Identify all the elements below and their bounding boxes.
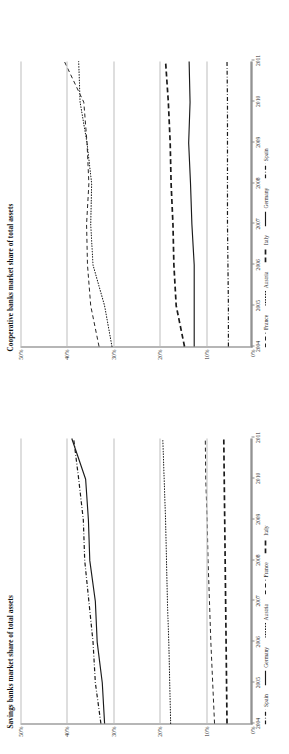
x-axis-tick-label: 2004 [254,340,260,351]
legend-item-germany[interactable]: Germany [262,646,268,684]
plot-area-savings: 0%10%20%30%40%50%20042005200620072008200… [20,438,252,724]
x-axis-tick-label: 2010 [254,472,260,483]
series-line-germany [71,438,104,723]
legend-swatch-italy [262,247,268,262]
y-axis-tick-label: 40% [63,349,69,359]
series-line-italy [165,61,184,346]
x-axis-tick-label: 2009 [254,513,260,524]
series-line-austria [162,438,170,723]
gridline [66,61,67,346]
series-line-austria [78,61,111,346]
legend-item-france[interactable]: France [262,314,268,347]
plot-area-cooperative: 0%10%20%30%40%50%20042005200620072008200… [20,61,252,347]
legend-item-austria[interactable]: Austria [262,603,268,637]
x-axis-tick-label: 2007 [254,595,260,606]
x-axis-tick-label: 2006 [254,259,260,270]
x-axis-tick-label: 2005 [254,677,260,688]
legend-swatch-spain [262,709,268,724]
legend-label: France [262,314,268,329]
legend-item-austria[interactable]: Austria [262,271,268,305]
legend-swatch-italy [262,538,268,553]
x-axis-tick-label: 2011 [254,432,260,443]
gridline [113,61,114,346]
legend-item-italy[interactable]: Italy [262,235,268,263]
gridline [20,61,21,346]
y-axis-tick-label: 50% [17,726,23,736]
legend-item-germany[interactable]: Germany [262,187,268,225]
legend-item-spain[interactable]: Spain [262,694,268,724]
gridline [159,438,160,723]
gridline [113,438,114,723]
series-lines-cooperative [20,61,251,346]
chart-panel-cooperative-banks: Cooperative banks market share of total … [0,0,289,377]
gridline [66,438,67,723]
chart-title-savings: Savings banks market share of total asse… [6,377,14,754]
legend-swatch-germany [262,211,268,226]
x-axis-tick-label: 2011 [254,55,260,66]
gridline [159,61,160,346]
figure-page: Cooperative banks market share of total … [0,0,289,754]
y-axis-tick-label: 30% [110,726,116,736]
chart-title-cooperative: Cooperative banks market share of total … [6,0,14,377]
legend-swatch-austria [262,622,268,637]
series-line-germany [188,61,194,346]
x-axis-tick-label: 2010 [254,95,260,106]
legend-label: Spain [262,694,268,707]
x-axis-tick-label: 2007 [254,218,260,229]
legend-label: Austria [262,603,268,619]
series-line-spain [227,61,228,346]
legend-label: Germany [262,646,268,667]
gridline [206,438,207,723]
legend-label: Italy [262,525,268,535]
y-axis-tick-label: 40% [63,726,69,736]
legend-savings: SpainGermanyAustriaFranceItaly [262,438,268,724]
series-lines-savings [20,438,251,723]
series-line-spain [73,438,100,723]
legend-cooperative: FranceAustriaItalyGermanySpain [262,61,268,347]
x-axis-tick-label: 2008 [254,177,260,188]
x-axis-tick-label: 2008 [254,554,260,565]
chart-canvas-savings: Savings banks market share of total asse… [0,377,289,754]
x-axis-tick-label: 2004 [254,717,260,728]
y-axis-tick-label: 50% [17,349,23,359]
legend-label: Italy [262,235,268,245]
gridline [20,438,21,723]
legend-swatch-germany [262,670,268,685]
gridline [206,61,207,346]
y-axis-tick-label: 20% [156,349,162,359]
legend-swatch-france [262,579,268,594]
chart-panel-savings-banks: Savings banks market share of total asse… [0,377,289,754]
series-line-italy [223,438,226,723]
y-axis-tick-label: 30% [110,349,116,359]
series-line-france [64,61,99,346]
x-axis-tick-label: 2006 [254,636,260,647]
legend-item-france[interactable]: France [262,562,268,595]
legend-item-italy[interactable]: Italy [262,525,268,553]
y-axis-tick-label: 20% [156,726,162,736]
legend-swatch-austria [262,290,268,305]
legend-swatch-spain [262,163,268,178]
chart-canvas-cooperative: Cooperative banks market share of total … [0,0,289,377]
legend-swatch-france [262,332,268,347]
x-axis-tick-label: 2009 [254,136,260,147]
y-axis-tick-label: 10% [203,726,209,736]
legend-label: Austria [262,271,268,287]
legend-label: Spain [262,148,268,161]
legend-item-spain[interactable]: Spain [262,148,268,178]
y-axis-tick-label: 10% [203,349,209,359]
legend-label: Germany [262,187,268,208]
x-axis-tick-label: 2005 [254,300,260,311]
legend-label: France [262,562,268,577]
